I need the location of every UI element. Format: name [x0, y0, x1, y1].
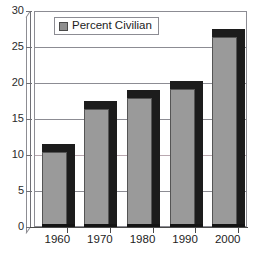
bar-top-face [212, 29, 245, 37]
legend-swatch-icon [59, 22, 68, 31]
x-axis-tick-label: 1970 [80, 234, 120, 246]
y-axis-tick-label: 15 [12, 113, 24, 124]
y-axis-tick: 25 [0, 41, 24, 53]
y-axis-tick-mark [26, 83, 32, 84]
bar-side-face [237, 29, 245, 228]
y-axis-tick-label: 5 [18, 185, 24, 196]
x-axis-line [30, 227, 248, 228]
bar-side-face [67, 144, 75, 228]
bar [84, 101, 117, 228]
plot-area [34, 11, 247, 227]
bar-top-face [170, 81, 203, 89]
bar [212, 29, 245, 228]
bar-top-face [127, 90, 160, 98]
bar [42, 144, 75, 228]
bar-front-face [212, 37, 237, 228]
bar [127, 90, 160, 228]
bar [170, 81, 203, 228]
y-axis-tick-label: 10 [12, 149, 24, 160]
y-axis-tick-mark [26, 47, 32, 48]
bar-side-face [152, 90, 160, 228]
y-axis-spine-depth [26, 17, 27, 233]
y-axis-tick: 5 [0, 185, 24, 197]
legend-label: Percent Civilian [72, 20, 152, 32]
bar-front-face [170, 89, 195, 228]
bar-front-face [84, 109, 109, 228]
y-axis-tick: 30 [0, 5, 24, 17]
y-axis-tick-label: 30 [12, 5, 24, 16]
x-axis-tick-label: 2000 [208, 234, 248, 246]
y-axis-tick: 0 [0, 221, 24, 233]
bar-top-face [84, 101, 117, 109]
y-axis-tick-label: 20 [12, 77, 24, 88]
y-axis-tick: 10 [0, 149, 24, 161]
y-axis-tick: 20 [0, 77, 24, 89]
bar-front-face [127, 98, 152, 228]
chart-legend: Percent Civilian [54, 17, 159, 35]
y-axis-tick-mark [26, 191, 32, 192]
y-axis-tick-mark [26, 155, 32, 156]
bar-front-face [42, 152, 67, 228]
y-axis-tick-mark [26, 119, 32, 120]
gridline [35, 11, 246, 12]
y-axis-tick: 15 [0, 113, 24, 125]
y-axis-tick-label: 25 [12, 41, 24, 52]
x-axis-tick-label: 1980 [123, 234, 163, 246]
bar-top-face [42, 144, 75, 152]
bar-side-face [195, 81, 203, 228]
y-axis-tick-label: 0 [18, 221, 24, 232]
x-axis-tick-label: 1990 [165, 234, 205, 246]
bar-side-face [109, 101, 117, 228]
x-axis-tick-label: 1960 [37, 234, 77, 246]
bar-chart: 051015202530 19601970198019902000 Percen… [0, 0, 259, 254]
